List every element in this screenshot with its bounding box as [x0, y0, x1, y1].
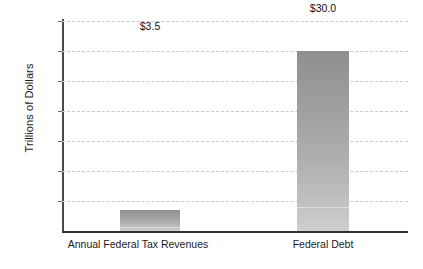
tick-mark-25: [58, 81, 62, 82]
tick-mark-15: [58, 141, 62, 142]
tick-mark-35: [58, 21, 62, 22]
bar-sheen: [297, 207, 349, 208]
tick-mark-5: [58, 201, 62, 202]
tick-mark-20: [58, 111, 62, 112]
bar-federal-debt[interactable]: [297, 51, 349, 231]
bar-sheen: [120, 227, 180, 228]
gridline-30: [62, 51, 408, 52]
bar-value-label-federal-debt: $30.0: [283, 2, 363, 14]
x-category-label-federal-debt: Federal Debt: [237, 238, 409, 250]
gridline-10: [62, 171, 408, 172]
bar-value-label-annual-federal-tax-revenues: $3.5: [110, 20, 190, 32]
gridline-5: [62, 201, 408, 202]
gridline-15: [62, 141, 408, 142]
tick-mark-10: [58, 171, 62, 172]
bar-chart: Trillions of Dollars $35 $30 $25 $20 $15…: [0, 0, 423, 269]
y-axis-title: Trillions of Dollars: [23, 33, 35, 183]
gridline-25: [62, 81, 408, 82]
x-axis-line: [62, 231, 408, 233]
plot-area: $35 $30 $25 $20 $15 $10 $5 $0 $3.5 $30.0: [62, 21, 408, 231]
bar-annual-federal-tax-revenues[interactable]: [120, 210, 180, 231]
x-category-label-annual-federal-tax-revenues: Annual Federal Tax Revenues: [40, 238, 236, 250]
gridline-20: [62, 111, 408, 112]
tick-mark-30: [58, 51, 62, 52]
